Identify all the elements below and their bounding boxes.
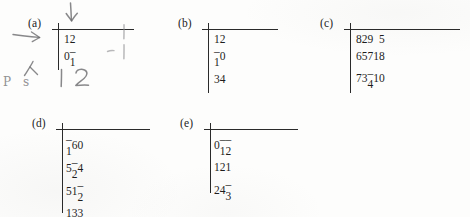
matrix-a-grid: 1 2 0 –1 (64, 34, 76, 69)
matrix-row: 6 5 7 18 (356, 46, 385, 68)
matrix-cell: 2 (70, 34, 76, 46)
matrix-a-left-rule (58, 23, 59, 70)
matrix-cell: 4 (78, 157, 84, 180)
matrix-row: 0 –1 –2 (214, 134, 231, 157)
matrix-e-top-rule (204, 129, 298, 130)
matrix-cell: 1 (214, 34, 220, 46)
matrix-b-left-rule (208, 23, 209, 93)
matrix-cell: –2 (72, 157, 78, 180)
matrix-d-grid: –1 6 0 5 –2 4 5 1 –2 1 3 3 (66, 134, 83, 217)
matrix-cell: 0 (78, 134, 84, 157)
pencil-scribble-label: P s (3, 76, 33, 88)
tick-mark-upper (120, 24, 128, 40)
matrix-cell: –1 (220, 134, 226, 157)
matrix-cell: 2 (220, 34, 226, 46)
matrix-row: 8 2 9 5 (356, 34, 385, 46)
matrix-row: 5 –2 4 (66, 157, 83, 180)
down-arrow-icon (58, 2, 84, 24)
matrix-row: 1 2 (64, 34, 76, 46)
matrix-c-left-rule (350, 23, 351, 93)
scanned-page: (a) 1 2 0 –1 (b) 1 2 –1 0 (0, 0, 470, 217)
matrix-cell: –2 (78, 180, 84, 203)
matrix-cell: 8 (356, 34, 362, 46)
matrix-cell: 0 (220, 46, 226, 69)
matrix-d-left-rule (62, 123, 63, 213)
matrix-c-label: (c) (320, 18, 333, 30)
matrix-row: 7 3 –4 10 (356, 68, 385, 91)
matrix-cell: 1 (226, 157, 232, 179)
matrix-c-top-rule (344, 29, 460, 30)
matrix-cell: –1 (214, 46, 220, 69)
matrix-cell: 4 (220, 69, 226, 91)
matrix-b-grid: 1 2 –1 0 3 4 (214, 34, 226, 91)
matrix-b-label: (b) (178, 18, 192, 30)
matrix-cell: –1 (70, 46, 76, 69)
matrix-cell: –3 (226, 179, 232, 202)
matrix-cell: 5 (373, 34, 385, 46)
matrix-row: 2 4 –3 (214, 179, 231, 202)
matrix-e-left-rule (210, 123, 211, 193)
matrix-row: 1 3 3 (66, 203, 83, 217)
matrix-cell: 1 (64, 34, 70, 46)
matrix-cell: –1 (66, 134, 72, 157)
matrix-row: 3 4 (214, 69, 226, 91)
matrix-cell: 2 (362, 34, 368, 46)
tick-mark-lower (106, 44, 130, 60)
matrix-cell: 10 (373, 68, 385, 91)
right-arrow-icon (12, 28, 44, 44)
matrix-c-grid: 8 2 9 5 6 5 7 18 7 3 –4 10 (356, 34, 385, 91)
matrix-cell: 18 (373, 46, 385, 68)
matrix-row: 1 2 1 (214, 157, 231, 179)
matrix-cell: 3 (78, 203, 84, 217)
matrix-row: –1 6 0 (66, 134, 83, 157)
matrix-e-grid: 0 –1 –2 1 2 1 2 4 –3 (214, 134, 231, 202)
handwritten-digit-two (74, 68, 92, 88)
matrix-cell: 9 (368, 34, 374, 46)
matrix-d-label: (d) (32, 118, 46, 130)
matrix-row: 0 –1 (64, 46, 76, 69)
matrix-d-top-rule (56, 129, 150, 130)
matrix-a-label: (a) (28, 18, 41, 30)
matrix-row: 1 2 (214, 34, 226, 46)
matrix-cell: –2 (226, 134, 232, 157)
matrix-e-label: (e) (180, 118, 193, 130)
matrix-b-top-rule (202, 29, 278, 30)
matrix-row: 5 1 –2 (66, 180, 83, 203)
matrix-row: –1 0 (214, 46, 226, 69)
handwritten-digit-one (56, 68, 68, 88)
matrix-a-top-rule (52, 29, 134, 30)
